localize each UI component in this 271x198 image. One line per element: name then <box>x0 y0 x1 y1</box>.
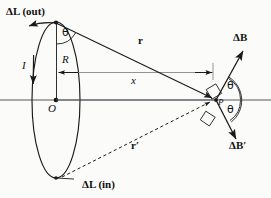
delta-l-in-leader <box>56 178 74 179</box>
theta-lower-right-label: θ <box>227 104 234 115</box>
delta-l-out-label: ΔL (out) <box>6 6 45 17</box>
point-p-label: P <box>218 98 224 107</box>
delta-b-prime-label: ΔB′ <box>229 140 246 151</box>
delta-l-in-label: ΔL (in) <box>82 179 115 190</box>
current-label: I <box>22 60 26 71</box>
radius-label: R <box>62 54 69 65</box>
diagram-svg <box>0 0 271 198</box>
x-label: x <box>131 75 136 86</box>
delta-b-vector <box>216 51 243 100</box>
delta-l-out-arrow <box>29 23 55 26</box>
r-label: r <box>138 35 143 46</box>
right-angle-square-lower <box>200 111 215 126</box>
center-label: O <box>48 103 56 114</box>
figure-canvas: ΔL (out) ΔL (in) I R O r r′ x θ θ θ P ΔB… <box>0 0 271 198</box>
theta-upper-right-label: θ <box>227 80 234 91</box>
theta-top-label: θ <box>62 27 69 38</box>
delta-b-label: ΔB <box>233 32 247 43</box>
r-prime-label: r′ <box>131 140 139 151</box>
